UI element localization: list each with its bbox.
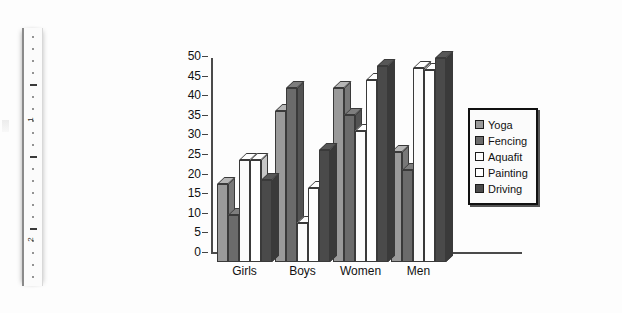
y-axis-tick (202, 134, 208, 135)
legend-label: Driving (488, 183, 522, 195)
ruler-tick-marks: 12 (24, 28, 42, 286)
legend-swatch-fencing (475, 136, 484, 145)
bar-group-girls[interactable] (217, 66, 282, 262)
bar-face (228, 215, 239, 262)
legend-item-yoga[interactable]: Yoga (475, 117, 528, 132)
legend-item-fencing[interactable]: Fencing (475, 133, 528, 148)
bar-girls-driving[interactable] (261, 180, 272, 262)
bar-men-fencing[interactable] (402, 170, 413, 262)
bar-face (286, 88, 297, 262)
bar-boys-aquafit[interactable] (297, 223, 308, 262)
y-axis-tick (202, 95, 208, 96)
legend-item-painting[interactable]: Painting (475, 165, 528, 180)
legend-label: Fencing (488, 135, 527, 147)
bar-girls-aquafit[interactable] (239, 160, 250, 262)
bar-group-men[interactable] (391, 66, 456, 262)
y-axis-tick-label: 30 (188, 127, 201, 141)
ruler-tick (32, 168, 34, 170)
ruler-tick (32, 192, 34, 194)
bar-face (297, 223, 308, 262)
y-axis-tick-label: 45 (188, 69, 201, 83)
category-label-women: Women (340, 264, 381, 278)
legend-swatch-yoga (475, 120, 484, 129)
y-axis-tick (202, 174, 208, 175)
bar-face (402, 170, 413, 262)
bar-women-driving[interactable] (377, 66, 388, 262)
bar-face (424, 70, 435, 262)
ruler-number: 1 (26, 117, 35, 121)
y-axis-tick (202, 213, 208, 214)
bar-boys-fencing[interactable] (286, 88, 297, 262)
vertical-ruler[interactable]: 12 (22, 28, 43, 286)
bar-face (319, 150, 330, 262)
ruler-tick (32, 180, 34, 182)
y-axis: 05101520253035404550 (171, 50, 211, 262)
bar-women-fencing[interactable] (344, 115, 355, 262)
bar-girls-yoga[interactable] (217, 184, 228, 262)
ruler-tick (32, 252, 34, 254)
bar-side-face (272, 173, 279, 262)
legend-label: Painting (488, 167, 528, 179)
y-axis-tick-label: 35 (188, 108, 201, 122)
y-axis-line (211, 58, 213, 254)
bar-face (239, 160, 250, 262)
bar-face (355, 131, 366, 262)
bar-girls-painting[interactable] (250, 160, 261, 262)
bar-face (344, 115, 355, 262)
y-axis-tick (202, 232, 208, 233)
bar-side-face (388, 59, 395, 262)
bar-chart-object[interactable]: 05101520253035404550 GirlsBoysWomenMen Y… (131, 40, 571, 285)
legend-item-driving[interactable]: Driving (475, 181, 528, 196)
y-axis-tick-label: 50 (188, 49, 201, 63)
bar-men-driving[interactable] (435, 58, 446, 262)
chart-plot-area: 05101520253035404550 GirlsBoysWomenMen (171, 50, 481, 262)
bar-women-painting[interactable] (366, 80, 377, 262)
bar-face (435, 58, 446, 262)
document-page: 12 05101520253035404550 GirlsBoysWomenMe… (0, 0, 622, 313)
ruler-tick (30, 156, 37, 158)
ruler-tick (32, 144, 34, 146)
ruler-tick (32, 216, 34, 218)
ruler-tick (32, 108, 34, 110)
bar-group-boys[interactable] (275, 66, 340, 262)
ruler-tick (32, 96, 34, 98)
ruler-tick (30, 228, 37, 230)
category-label-men: Men (407, 264, 430, 278)
legend-item-aquafit[interactable]: Aquafit (475, 149, 528, 164)
legend-swatch-driving (475, 184, 484, 193)
bar-men-painting[interactable] (424, 70, 435, 262)
y-axis-tick (202, 76, 208, 77)
bar-group-women[interactable] (333, 66, 398, 262)
legend-label: Yoga (488, 119, 513, 131)
y-axis-tick-label: 25 (188, 147, 201, 161)
y-axis-tick (202, 56, 208, 57)
bar-women-aquafit[interactable] (355, 131, 366, 262)
bar-face (413, 68, 424, 262)
legend-swatch-aquafit (475, 152, 484, 161)
y-axis-tick-label: 15 (188, 186, 201, 200)
bar-side-face (330, 144, 337, 262)
y-axis-tick (202, 193, 208, 194)
ruler-tick (32, 72, 34, 74)
bar-side-face (446, 52, 453, 262)
ruler-tick (32, 264, 34, 266)
y-axis-tick-label: 0 (194, 245, 201, 259)
legend-swatch-painting (475, 168, 484, 177)
bar-men-aquafit[interactable] (413, 68, 424, 262)
y-axis-tick-label: 10 (188, 206, 201, 220)
bar-boys-painting[interactable] (308, 188, 319, 262)
y-axis-tick (202, 154, 208, 155)
ruler-tick (32, 132, 34, 134)
y-axis-tick-label: 40 (188, 88, 201, 102)
bar-face (377, 66, 388, 262)
ruler-tick (32, 204, 34, 206)
ruler-tick (32, 276, 34, 278)
ruler-tick (32, 60, 34, 62)
y-axis-tick (202, 115, 208, 116)
bar-boys-driving[interactable] (319, 150, 330, 262)
bar-girls-fencing[interactable] (228, 215, 239, 262)
chart-legend[interactable]: YogaFencingAquafitPaintingDriving (468, 108, 538, 205)
legend-label: Aquafit (488, 151, 522, 163)
y-axis-tick-label: 20 (188, 167, 201, 181)
bar-face (308, 188, 319, 262)
